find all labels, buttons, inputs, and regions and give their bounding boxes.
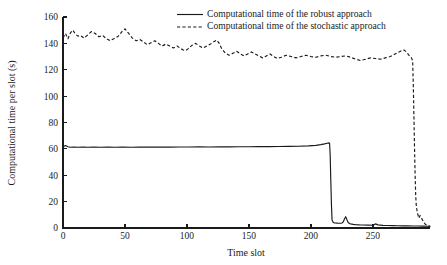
x-tick-label: 150 (242, 231, 257, 241)
y-tick-label: 40 (49, 171, 59, 181)
x-tick-label: 50 (120, 231, 130, 241)
y-tick-label: 60 (49, 144, 59, 154)
series-line-robust (63, 143, 430, 226)
x-axis-ticks: 050100150200250 (61, 224, 381, 241)
series-line-stochastic (63, 29, 430, 227)
y-tick-label: 160 (44, 12, 59, 22)
chart-legend: Computational time of the robust approac… (177, 8, 386, 32)
y-tick-label: 80 (49, 118, 59, 128)
axis-frame (63, 17, 430, 228)
x-tick-label: 100 (180, 231, 195, 241)
y-tick-label: 0 (53, 223, 58, 233)
y-tick-label: 140 (44, 39, 59, 49)
x-tick-label: 250 (366, 231, 381, 241)
x-tick-label: 200 (304, 231, 319, 241)
y-tick-label: 100 (44, 92, 59, 102)
y-tick-label: 20 (49, 197, 59, 207)
y-tick-label: 120 (44, 65, 59, 75)
chart-figure: 020406080100120140160 050100150200250 Co… (0, 0, 447, 265)
y-axis-title: Computational time per slot (s) (6, 61, 18, 186)
legend-label-stochastic: Computational time of the stochastic app… (207, 20, 386, 31)
x-axis-title: Time slot (227, 247, 265, 258)
legend-label-robust: Computational time of the robust approac… (207, 8, 372, 19)
x-tick-label: 0 (61, 231, 66, 241)
line-chart: 020406080100120140160 050100150200250 Co… (0, 0, 447, 265)
